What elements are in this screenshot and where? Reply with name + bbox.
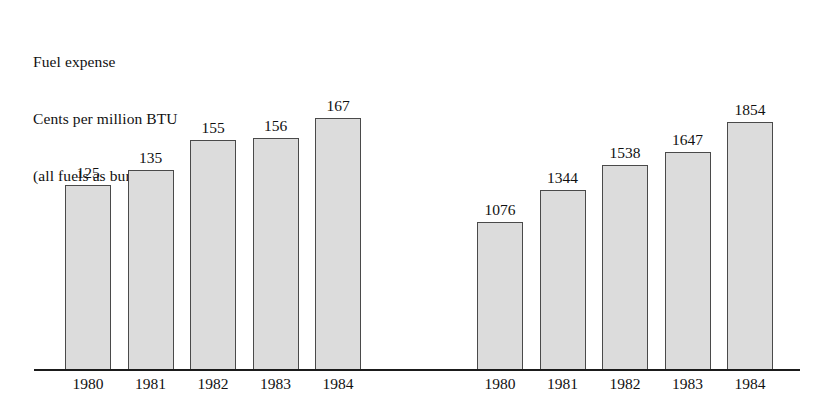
bar-value-label: 1344 (520, 170, 606, 186)
bar (315, 118, 361, 369)
bar (602, 165, 648, 369)
bar (727, 122, 773, 369)
bar-value-label: 156 (233, 118, 319, 134)
bar-value-label: 135 (108, 150, 194, 166)
chart-title-line: Cents per million BTU (33, 109, 178, 128)
bar (477, 222, 523, 369)
bar (128, 170, 174, 369)
bar (665, 152, 711, 369)
x-axis-tick-label: 1984 (300, 375, 376, 393)
bar (540, 190, 586, 369)
bar-value-label: 167 (295, 98, 381, 114)
axis-baseline (34, 369, 800, 371)
chart-page: Fuel expense Cents per million BTU (all … (0, 0, 832, 415)
bar-value-label: 1647 (645, 132, 731, 148)
bar (65, 185, 111, 369)
bar-value-label: 1076 (457, 202, 543, 218)
bar (190, 140, 236, 369)
chart-title-line: Fuel expense (33, 52, 178, 71)
x-axis-tick-label: 1984 (712, 375, 788, 393)
bar (253, 138, 299, 369)
bar-value-label: 125 (45, 165, 131, 181)
chart-fuel-expense: Fuel expense Cents per million BTU (all … (0, 0, 420, 415)
bar-value-label: 1854 (707, 102, 793, 118)
